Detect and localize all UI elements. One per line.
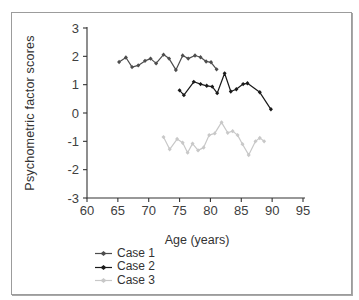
y-tick-label: 2	[72, 49, 79, 64]
x-tick-label: 95	[296, 203, 310, 218]
y-tick-label: -2	[67, 162, 79, 177]
legend-label: Case 3	[117, 274, 155, 287]
x-tick-label: 75	[172, 203, 186, 218]
psychometric-scores-figure: 60657075808590953210-1-2-3 Psychometric …	[0, 0, 359, 300]
data-point-marker	[199, 82, 203, 86]
legend-item-case-3: Case 3	[95, 274, 155, 287]
line-chart-canvas: 60657075808590953210-1-2-3	[0, 0, 359, 300]
data-point-marker	[193, 53, 197, 57]
y-tick-label: 1	[72, 77, 79, 92]
x-tick-label: 70	[141, 203, 155, 218]
y-tick-label: -1	[67, 134, 79, 149]
case-2-line-marker-icon	[95, 263, 112, 272]
legend-label: Case 2	[117, 260, 155, 273]
x-tick-label: 60	[80, 203, 94, 218]
legend-label: Case 1	[117, 247, 155, 260]
case-1-line-marker-icon	[95, 249, 112, 258]
data-point-marker	[181, 53, 185, 57]
legend-item-case-1: Case 1	[95, 247, 155, 260]
y-tick-label: -3	[67, 191, 79, 206]
x-tick-label: 80	[203, 203, 217, 218]
data-point-marker	[229, 89, 233, 93]
y-tick-label: 0	[72, 106, 79, 121]
data-point-marker	[202, 145, 206, 149]
case-3-line-marker-icon	[95, 276, 112, 285]
x-tick-label: 65	[111, 203, 125, 218]
x-axis-label: Age (years)	[165, 233, 230, 247]
x-tick-label: 90	[265, 203, 279, 218]
legend: Case 1 Case 2 Case 3	[95, 247, 155, 287]
axes	[87, 27, 305, 198]
y-axis-label: Psychometric factor scores	[23, 35, 37, 190]
legend-item-case-2: Case 2	[95, 260, 155, 273]
data-point-marker	[205, 84, 209, 88]
x-tick-label: 85	[234, 203, 248, 218]
data-point-marker	[223, 71, 227, 75]
data-point-marker	[186, 56, 190, 60]
series-line-case-2	[180, 73, 271, 109]
y-tick-label: 3	[72, 21, 79, 36]
data-point-marker	[207, 133, 211, 137]
